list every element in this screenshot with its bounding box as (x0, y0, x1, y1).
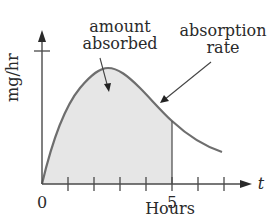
annotation-rate-line1: absorption (168, 22, 278, 39)
annotation-amount-line1: amount (60, 18, 180, 35)
annotation-amount-line2: absorbed (60, 35, 180, 52)
absorption-chart: amount absorbed absorption rate mg/hr 0 … (0, 0, 280, 215)
y-axis-label: mg/hr (4, 53, 21, 102)
annotation-absorption-rate: absorption rate (168, 22, 278, 56)
x-axis-arrow-icon (240, 180, 252, 188)
annotation-rate-line2: rate (168, 39, 278, 56)
y-axis-arrow-icon (38, 30, 46, 42)
x-tick-label-0: 0 (34, 194, 50, 211)
absorption-rate-pointer (164, 62, 211, 100)
x-axis-variable: t (254, 175, 268, 192)
x-axis-label: Hours (130, 200, 210, 215)
absorption-rate-arrowhead-icon (160, 95, 169, 103)
annotation-amount-absorbed: amount absorbed (60, 18, 180, 52)
